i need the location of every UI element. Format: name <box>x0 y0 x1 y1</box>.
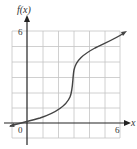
y-tick-6-label: 6 <box>18 27 23 37</box>
origin-label: 0 <box>18 125 23 135</box>
x-tick-6-label: 6 <box>115 125 120 135</box>
chart: f(x) x 0 6 6 <box>0 0 137 149</box>
x-axis-label: x <box>130 117 136 128</box>
y-axis-label: f(x) <box>17 4 32 16</box>
y-axis-arrow-icon <box>24 15 30 22</box>
curve-end-arrow-icon <box>121 31 127 36</box>
grid <box>12 31 120 138</box>
x-axis-arrow-icon <box>124 120 131 126</box>
